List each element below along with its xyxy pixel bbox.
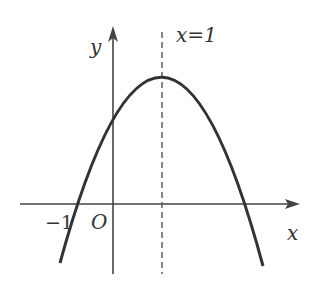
symmetry-label: x=1 — [176, 23, 217, 47]
origin-label: O — [91, 210, 107, 234]
y-axis-label: y — [89, 35, 102, 59]
tick-label-neg1: −1 — [45, 211, 73, 233]
x-axis-label: x — [287, 221, 298, 245]
parabola-diagram: y x=1 x O −1 — [0, 0, 320, 297]
